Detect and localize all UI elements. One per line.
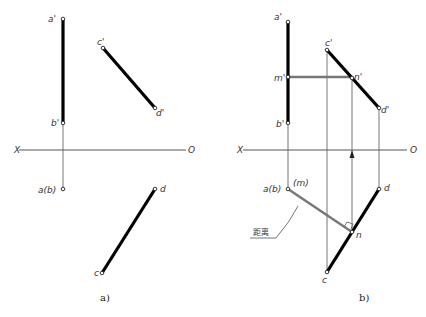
label-c-prime-b: c' bbox=[325, 38, 332, 48]
label-b-prime-a: b' bbox=[51, 118, 59, 128]
point-n-b bbox=[350, 230, 354, 234]
label-n-prime-b: n' bbox=[354, 72, 362, 82]
point-a-prime-b bbox=[286, 20, 290, 24]
label-c-b: c bbox=[322, 275, 327, 285]
label-d-a: d bbox=[160, 184, 166, 194]
label-d-prime-a: d' bbox=[156, 108, 164, 118]
point-m-prime-b bbox=[286, 75, 290, 79]
point-b-prime-b bbox=[286, 121, 290, 125]
label-ab-a: a(b) bbox=[38, 185, 56, 195]
diagram-b: 距离 X O a' m' b' c' n' d' a(b) (m) d n bbox=[236, 12, 417, 303]
label-d-prime-b: d' bbox=[381, 105, 389, 115]
segment-distance-b bbox=[288, 189, 352, 232]
label-ab-b: a(b) bbox=[263, 184, 281, 194]
diagram-svg: X O a' b' c' d' a(b) d c a) bbox=[0, 0, 426, 317]
point-b-prime-a bbox=[61, 121, 65, 125]
axis-label-o-b: O bbox=[410, 145, 417, 155]
point-c-b bbox=[325, 270, 329, 274]
label-a-prime-a: a' bbox=[48, 14, 56, 24]
arrow-up-icon bbox=[350, 150, 355, 158]
axis-label-o-a: O bbox=[188, 145, 195, 155]
caption-b: b) bbox=[359, 292, 369, 303]
point-d-a bbox=[153, 187, 157, 191]
label-m-prime-b: m' bbox=[274, 73, 285, 83]
point-d-b bbox=[377, 187, 381, 191]
axis-label-x-b: X bbox=[236, 145, 244, 155]
label-d-b: d bbox=[384, 183, 390, 193]
point-ab-a bbox=[61, 187, 65, 191]
caption-a: a) bbox=[100, 292, 110, 303]
projection-diagram-canvas: X O a' b' c' d' a(b) d c a) bbox=[0, 0, 426, 317]
point-a-prime-a bbox=[61, 17, 65, 21]
label-m-b: (m) bbox=[293, 178, 309, 188]
point-ab-b bbox=[286, 187, 290, 191]
segment-c-prime-d-prime-a bbox=[103, 48, 155, 108]
label-c-a: c bbox=[94, 268, 99, 278]
annotation-distance: 距离 bbox=[253, 227, 269, 237]
point-c-prime-b bbox=[325, 48, 329, 52]
point-c-a bbox=[100, 271, 104, 275]
segment-cd-a bbox=[102, 189, 155, 273]
label-a-prime-b: a' bbox=[274, 12, 282, 22]
label-n-b: n bbox=[356, 230, 362, 240]
label-c-prime-a: c' bbox=[97, 37, 104, 47]
diagram-a: X O a' b' c' d' a(b) d c a) bbox=[13, 14, 195, 303]
label-b-prime-b: b' bbox=[276, 119, 284, 129]
axis-label-x-a: X bbox=[13, 145, 21, 155]
